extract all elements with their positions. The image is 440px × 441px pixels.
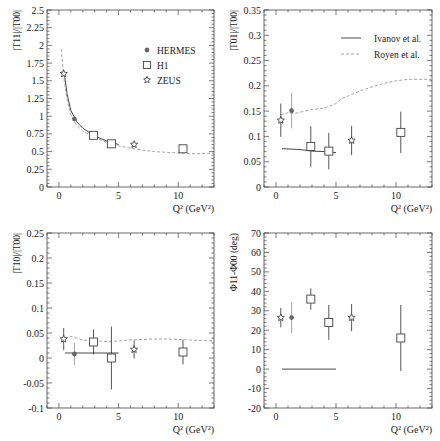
y-tick-label: 0 xyxy=(256,364,261,375)
x-tick-label: 5 xyxy=(334,190,339,201)
x-tick-label: 0 xyxy=(56,190,61,201)
zeus-star-marker xyxy=(277,314,284,321)
zeus-star-marker xyxy=(144,76,151,83)
h1-square-marker xyxy=(397,334,405,342)
y-tick-label: 10 xyxy=(251,344,261,355)
h1-square-marker xyxy=(325,318,333,326)
panel-t01-ratio: 051000.050.10.150.20.250.30.35Q² (GeV²)|… xyxy=(229,5,432,216)
hermes-circle-marker xyxy=(72,117,77,122)
panel-t10-ratio: 0510-0.1-0.0500.050.10.150.20.25Q² (GeV²… xyxy=(12,228,214,437)
plot-area xyxy=(60,327,214,390)
plot-area xyxy=(60,49,214,154)
zeus-star-marker xyxy=(277,116,284,123)
x-tick-label: 10 xyxy=(391,190,401,201)
x-axis-label: Q² (GeV²) xyxy=(173,203,214,215)
hermes-circle-marker xyxy=(289,108,294,113)
legend-label: Royen et al. xyxy=(374,50,420,60)
zeus-star-marker xyxy=(60,70,67,77)
y-axis-label: |T01|/|T00| xyxy=(229,10,239,51)
y-tick-label: 2 xyxy=(39,40,44,51)
y-tick-label: 50 xyxy=(251,266,261,277)
plot-area xyxy=(277,288,405,371)
y-tick-label: 0.35 xyxy=(244,5,262,16)
y-tick-label: 0 xyxy=(256,182,261,193)
x-axis-label: Q² (GeV²) xyxy=(173,424,214,436)
royen-curve xyxy=(61,337,214,343)
x-tick-label: 0 xyxy=(56,411,61,422)
y-tick-label: 1.25 xyxy=(27,93,45,104)
y-tick-label: 0.05 xyxy=(27,328,45,339)
y-tick-label: 0.75 xyxy=(27,128,45,139)
plot-frame xyxy=(264,233,432,408)
h1-square-marker xyxy=(90,131,98,139)
zeus-star-marker xyxy=(131,346,138,353)
x-tick-label: 10 xyxy=(173,411,183,422)
h1-square-marker xyxy=(179,145,187,153)
y-tick-label: 0.25 xyxy=(27,228,45,239)
h1-square-marker xyxy=(107,354,115,362)
y-tick-label: 0.15 xyxy=(27,278,45,289)
y-tick-label: 0.2 xyxy=(249,80,262,91)
plot-frame xyxy=(47,233,214,408)
x-tick-label: 0 xyxy=(274,190,279,201)
y-tick-label: 0.5 xyxy=(32,146,45,157)
y-axis-label: Φ11-Φ00 (deg) xyxy=(229,233,240,291)
y-tick-label: 30 xyxy=(251,305,261,316)
y-tick-label: 1.75 xyxy=(27,58,45,69)
x-tick-label: 5 xyxy=(116,190,121,201)
x-tick-label: 5 xyxy=(334,411,339,422)
h1-square-marker xyxy=(325,147,333,155)
zeus-star-marker xyxy=(348,137,355,144)
y-tick-label: 70 xyxy=(251,228,261,239)
hermes-circle-marker xyxy=(289,315,294,320)
plot-area xyxy=(277,79,432,169)
y-tick-label: -0.05 xyxy=(23,378,44,389)
zeus-star-marker xyxy=(60,335,67,342)
x-axis-label: Q² (GeV²) xyxy=(391,203,432,215)
x-tick-label: 0 xyxy=(274,411,279,422)
y-tick-label: 0.15 xyxy=(244,106,262,117)
y-tick-label: 2.25 xyxy=(27,22,45,33)
y-tick-label: 0.25 xyxy=(27,164,45,175)
y-tick-label: -10 xyxy=(248,383,261,394)
y-tick-label: 0.25 xyxy=(244,55,262,66)
y-tick-label: 0.3 xyxy=(249,30,262,41)
panel-t11-ratio: 051000.250.50.7511.251.51.7522.252.5Q² (… xyxy=(12,5,214,216)
x-tick-label: 10 xyxy=(391,411,401,422)
y-axis-label: |T11|/|T00| xyxy=(12,10,22,51)
y-tick-label: 40 xyxy=(251,286,261,297)
zeus-star-marker xyxy=(131,141,138,148)
y-axis-label: |T10|/|T00| xyxy=(12,233,22,274)
h1-square-marker xyxy=(307,143,315,151)
x-axis-label: Q² (GeV²) xyxy=(391,424,432,436)
h1-square-marker xyxy=(179,348,187,356)
figure-canvas: 051000.250.50.7511.251.51.7522.252.5Q² (… xyxy=(0,0,440,441)
hermes-circle-marker xyxy=(72,352,77,357)
h1-square-marker xyxy=(397,128,405,136)
zeus-star-marker xyxy=(348,314,355,321)
royen-curve xyxy=(281,79,432,114)
legend-label: HERMES xyxy=(157,46,196,56)
y-tick-label: 0.05 xyxy=(244,156,262,167)
panel-phase-difference: 0510-20-10010203040506070Q² (GeV²)Φ11-Φ0… xyxy=(229,228,432,437)
y-tick-label: 0.2 xyxy=(32,253,45,264)
y-tick-label: 0.1 xyxy=(249,131,262,142)
legend-label: ZEUS xyxy=(157,76,181,86)
plot-frame xyxy=(47,10,214,187)
y-tick-label: 2.5 xyxy=(32,5,45,16)
y-tick-label: 0 xyxy=(39,182,44,193)
x-tick-label: 5 xyxy=(116,411,121,422)
legend-label: Ivanov et al. xyxy=(374,34,421,44)
y-tick-label: 20 xyxy=(251,325,261,336)
h1-square-marker xyxy=(307,295,315,303)
x-tick-label: 10 xyxy=(173,190,183,201)
y-tick-label: 0.1 xyxy=(32,303,45,314)
legend-label: H1 xyxy=(157,61,169,71)
y-tick-label: -0.1 xyxy=(28,403,44,414)
h1-square-marker xyxy=(107,140,115,148)
y-tick-label: 1.5 xyxy=(32,75,45,86)
legend-h1-icon xyxy=(144,62,151,69)
y-tick-label: 0 xyxy=(39,353,44,364)
h1-square-marker xyxy=(90,338,98,346)
legend-hermes-icon xyxy=(145,48,150,53)
